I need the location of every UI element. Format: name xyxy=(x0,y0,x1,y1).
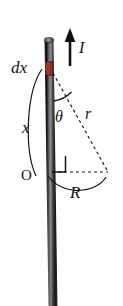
rod-top-cap xyxy=(44,38,53,43)
label-R: R xyxy=(69,183,81,202)
x-measure-brace xyxy=(28,69,42,176)
label-x: x xyxy=(21,118,30,137)
label-theta: θ xyxy=(55,108,63,125)
label-r: r xyxy=(85,105,92,122)
current-arrow-icon xyxy=(65,28,76,66)
label-origin: O xyxy=(21,167,32,183)
current-element-marker xyxy=(45,62,54,75)
label-dx: dx xyxy=(11,58,28,77)
angle-arc xyxy=(54,92,72,101)
label-current: I xyxy=(78,39,85,56)
physics-figure-current-rod: dx I x θ r O R xyxy=(0,0,123,306)
